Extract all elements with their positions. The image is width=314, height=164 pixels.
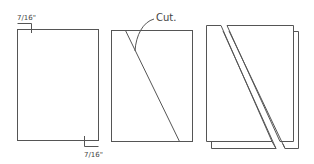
panel-separated <box>207 26 299 149</box>
fabric-rectangle <box>18 30 99 141</box>
dimension-bracket-top-left <box>18 24 32 34</box>
left-piece-edge <box>223 31 276 149</box>
cut-line <box>126 31 180 142</box>
left-piece-front <box>207 26 273 142</box>
right-piece-front <box>227 26 294 142</box>
panel-measure <box>18 24 99 147</box>
cut-label: Cut. <box>156 12 176 23</box>
offset-label-top-left: 7/16" <box>17 14 36 22</box>
right-piece-edge <box>229 31 285 149</box>
panel-cut <box>112 19 193 142</box>
cut-leader-line <box>135 19 154 51</box>
right-piece-back <box>283 32 299 149</box>
diagram-canvas: 7/16" 7/16" Cut. <box>0 0 314 164</box>
dimension-bracket-bottom-right <box>85 136 99 147</box>
offset-label-bottom-right: 7/16" <box>84 151 103 159</box>
left-piece-back <box>212 142 277 149</box>
